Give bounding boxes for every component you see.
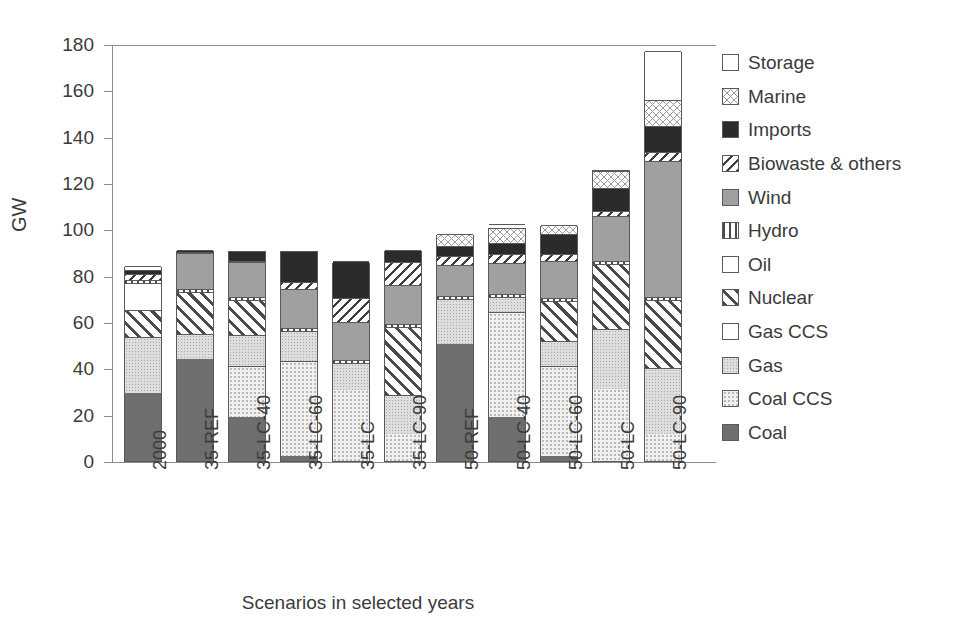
bar-segment-gas <box>333 363 369 391</box>
bar-segment-marine <box>541 225 577 234</box>
x-axis-label-2000: 2000 <box>150 430 171 470</box>
x-axis-label-35-LC-90: 35-LC-90 <box>410 395 431 470</box>
bar-segment-gas <box>489 297 525 312</box>
bar-50-LC[interactable] <box>592 170 630 462</box>
y-axis-tick <box>104 323 112 324</box>
x-axis-label-35-LC-60: 35-LC-60 <box>306 395 327 470</box>
bar-segment-wind <box>645 161 681 297</box>
bar-segment-hydro <box>333 360 369 363</box>
x-axis-label-35-LC-40: 35-LC-40 <box>254 395 275 470</box>
bar-segment-biowaste-others <box>333 298 369 322</box>
bar-segment-gas <box>281 331 317 361</box>
bar-segment-imports <box>541 234 577 254</box>
bar-segment-marine <box>437 234 473 246</box>
y-axis-title: GW <box>8 198 31 232</box>
bar-segment-storage <box>645 51 681 100</box>
legend-label: Coal CCS <box>748 389 832 408</box>
legend-swatch-icon <box>722 357 739 374</box>
y-axis-tick-label: 140 <box>30 128 94 147</box>
legend-item-marine[interactable]: Marine <box>722 80 958 114</box>
bar-segment-wind <box>541 261 577 298</box>
bar-segment-gas <box>541 341 577 366</box>
y-axis-tick <box>104 277 112 278</box>
bar-segment-hydro <box>593 261 629 264</box>
bar-segment-hydro <box>177 289 213 292</box>
y-axis-tick <box>104 45 112 46</box>
legend-swatch-icon <box>722 121 739 138</box>
legend-item-gas[interactable]: Gas <box>722 348 958 382</box>
bar-segment-gas <box>229 335 265 366</box>
bar-segment-biowaste-others <box>229 261 265 262</box>
legend-swatch-icon <box>722 88 739 105</box>
bar-segment-oil <box>125 283 161 311</box>
chart-legend: StorageMarineImportsBiowaste & othersWin… <box>722 46 958 449</box>
legend-swatch-icon <box>722 289 739 306</box>
y-axis-tick-label: 20 <box>30 406 94 425</box>
legend-item-imports[interactable]: Imports <box>722 113 958 147</box>
legend-label: Coal <box>748 423 787 442</box>
x-axis-label-50-LC: 50-LC <box>618 421 639 470</box>
bar-segment-gas <box>177 334 213 359</box>
y-axis-tick <box>104 369 112 370</box>
legend-swatch-icon <box>722 424 739 441</box>
legend-swatch-icon <box>722 256 739 273</box>
bar-segment-hydro <box>437 296 473 299</box>
y-axis-tick <box>104 138 112 139</box>
bar-segment-marine <box>645 100 681 125</box>
legend-label: Hydro <box>748 221 799 240</box>
y-axis-tick <box>104 230 112 231</box>
bar-segment-storage <box>125 266 161 269</box>
legend-item-nuclear[interactable]: Nuclear <box>722 281 958 315</box>
legend-item-oil[interactable]: Oil <box>722 248 958 282</box>
legend-swatch-icon <box>722 189 739 206</box>
y-axis-tick-label: 180 <box>30 35 94 54</box>
bar-segment-nuclear <box>645 300 681 368</box>
bar-segment-hydro <box>281 328 317 331</box>
y-axis-tick-label: 80 <box>30 267 94 286</box>
bar-segment-nuclear <box>125 310 161 337</box>
bar-segment-biowaste-others <box>593 211 629 216</box>
y-axis-tick <box>104 184 112 185</box>
x-axis-label-50-LC-60: 50-LC-60 <box>566 395 587 470</box>
bar-segment-nuclear <box>229 300 265 335</box>
bar-segment-wind <box>437 265 473 296</box>
bar-segment-biowaste-others <box>541 254 577 261</box>
legend-swatch-icon <box>722 155 739 172</box>
legend-label: Wind <box>748 188 791 207</box>
bar-segment-storage <box>489 224 525 227</box>
legend-label: Oil <box>748 255 771 274</box>
bar-segment-nuclear <box>177 292 213 334</box>
legend-label: Gas CCS <box>748 322 828 341</box>
legend-item-wind[interactable]: Wind <box>722 180 958 214</box>
bar-segment-biowaste-others <box>281 282 317 289</box>
legend-label: Biowaste & others <box>748 154 901 173</box>
bar-segment-imports <box>489 243 525 255</box>
y-axis-tick <box>104 416 112 417</box>
bar-segment-biowaste-others <box>437 256 473 264</box>
legend-item-gas-ccs[interactable]: Gas CCS <box>722 315 958 349</box>
bar-segment-gas <box>437 299 473 344</box>
legend-label: Nuclear <box>748 288 813 307</box>
legend-swatch-icon <box>722 390 739 407</box>
legend-swatch-icon <box>722 323 739 340</box>
bar-segment-gas <box>593 329 629 389</box>
y-axis-tick <box>104 91 112 92</box>
bar-segment-nuclear <box>385 327 421 395</box>
bar-segment-imports <box>281 251 317 282</box>
bar-segment-wind <box>593 216 629 261</box>
bar-segment-hydro <box>229 297 265 300</box>
legend-item-coal-ccs[interactable]: Coal CCS <box>722 382 958 416</box>
bar-segment-biowaste-others <box>177 252 213 253</box>
bar-segment-wind <box>333 322 369 359</box>
bar-segment-hydro <box>125 280 161 283</box>
bar-segment-wind <box>385 285 421 323</box>
y-axis-tick-label: 40 <box>30 359 94 378</box>
legend-item-biowaste-others[interactable]: Biowaste & others <box>722 147 958 181</box>
y-axis-tick <box>104 462 112 463</box>
y-axis-tick-label: 100 <box>30 220 94 239</box>
legend-item-hydro[interactable]: Hydro <box>722 214 958 248</box>
bar-segment-wind <box>177 253 213 289</box>
legend-item-coal[interactable]: Coal <box>722 416 958 450</box>
bar-segment-wind <box>281 289 317 328</box>
legend-item-storage[interactable]: Storage <box>722 46 958 80</box>
